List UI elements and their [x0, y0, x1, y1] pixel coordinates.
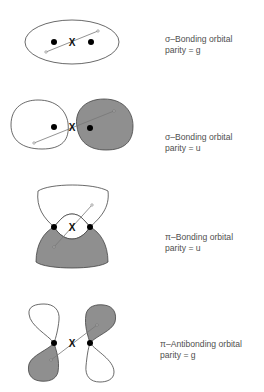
orbital-lobe-right-upper	[85, 305, 115, 343]
orbital-lobe-left-upper	[29, 304, 59, 343]
nucleus-dot	[51, 39, 57, 45]
panel-pi-antibonding-g: X	[28, 304, 115, 382]
nucleus-dot	[51, 224, 57, 230]
inversion-center-marker: X	[69, 338, 76, 349]
line-endpoint	[33, 142, 35, 144]
orbital-parity: parity = g	[165, 45, 232, 56]
line-endpoint	[45, 51, 47, 53]
panel-label-pi-antibonding-g: π–Antibonding orbital parity = g	[160, 339, 242, 361]
inversion-center-marker: X	[69, 37, 76, 48]
orbital-title: π–Antibonding orbital	[160, 339, 242, 350]
orbital-lobe-negative	[76, 99, 133, 150]
orbital-parity-diagram: X X X X	[0, 0, 264, 392]
panel-label-sigma-bonding-g: σ–Bonding orbital parity = g	[165, 34, 232, 56]
inversion-center-marker: X	[69, 222, 76, 233]
panel-sigma-bonding-g: X	[25, 20, 119, 64]
line-endpoint	[113, 110, 115, 112]
nucleus-dot	[87, 125, 93, 131]
orbital-lobe-right-lower	[86, 343, 114, 382]
panel-sigma-bonding-u: X	[11, 99, 133, 150]
nucleus-dot	[87, 340, 93, 346]
orbital-parity: parity = g	[160, 350, 242, 361]
nucleus-dot	[88, 39, 94, 45]
line-endpoint	[91, 204, 93, 206]
panel-label-pi-bonding-u: π–Bonding orbital parity = u	[165, 232, 233, 254]
orbital-parity: parity = u	[165, 143, 232, 154]
orbital-parity: parity = u	[165, 243, 233, 254]
orbital-lobe-positive	[11, 100, 68, 149]
line-endpoint	[53, 246, 55, 248]
orbital-title: σ–Bonding orbital	[165, 34, 232, 45]
orbital-title: σ–Bonding orbital	[165, 132, 232, 143]
inversion-center-marker: X	[69, 122, 76, 133]
nucleus-dot	[51, 340, 57, 346]
orbital-lobe-left-lower	[28, 343, 58, 381]
panel-label-sigma-bonding-u: σ–Bonding orbital parity = u	[165, 132, 232, 154]
line-endpoint	[96, 324, 98, 326]
nucleus-dot	[51, 124, 57, 130]
orbital-title: π–Bonding orbital	[165, 232, 233, 243]
line-endpoint	[97, 30, 99, 32]
panel-pi-bonding-u: X	[36, 185, 108, 268]
nucleus-dot	[87, 224, 93, 230]
line-endpoint	[50, 359, 52, 361]
